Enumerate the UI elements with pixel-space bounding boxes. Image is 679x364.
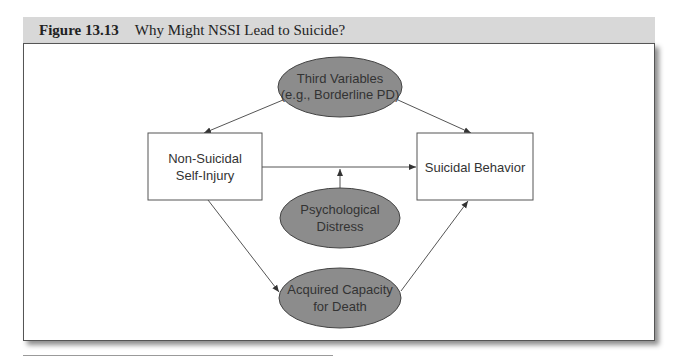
diagram: Third Variables (e.g., Borderline PD) No… [0,0,679,364]
node-acquired-capacity: Acquired Capacity for Death [279,268,401,328]
node-nssi: Non-Suicidal Self-Injury [148,133,262,200]
node-acquired-capacity-line1: Acquired Capacity [287,282,393,297]
node-acquired-capacity-line2: for Death [313,299,366,314]
edge-capacity-to-suicidal [401,201,468,291]
bottom-rule [23,355,333,356]
node-suicidal-behavior-label: Suicidal Behavior [425,160,526,175]
node-psychological-distress-line2: Distress [317,219,364,234]
node-psychological-distress-line1: Psychological [300,202,380,217]
edge-nssi-to-capacity [208,200,279,292]
node-third-variables-line2: (e.g., Borderline PD) [281,87,400,102]
node-nssi-line2: Self-Injury [176,168,235,183]
node-suicidal-behavior: Suicidal Behavior [417,133,533,200]
edge-third-to-nssi [204,100,283,133]
node-psychological-distress: Psychological Distress [280,188,400,248]
node-third-variables-line1: Third Variables [297,71,384,86]
edge-third-to-suicidal [398,100,471,133]
node-third-variables: Third Variables (e.g., Borderline PD) [278,57,402,117]
node-nssi-line1: Non-Suicidal [168,151,242,166]
